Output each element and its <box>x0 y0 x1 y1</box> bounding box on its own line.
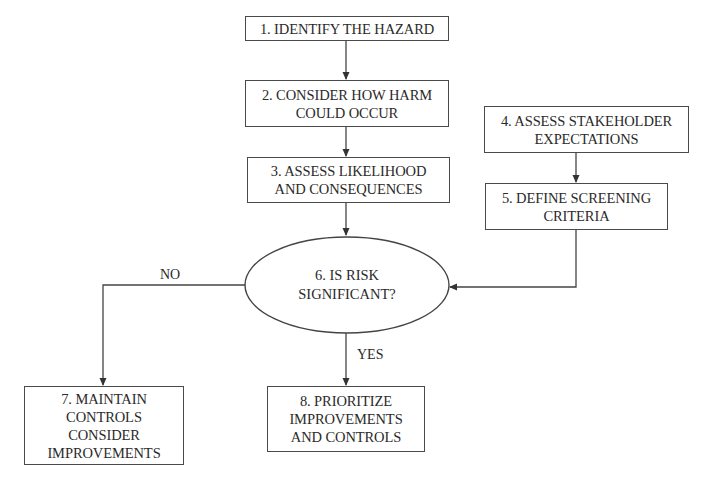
step-5-text-line1: 5. DEFINE SCREENING <box>502 189 651 207</box>
step-3-text-line1: 3. ASSESS LIKELIHOOD <box>271 162 427 180</box>
step-4-text-line1: 4. ASSESS STAKEHOLDER <box>501 112 672 130</box>
step-4-text-line2: EXPECTATIONS <box>501 130 672 148</box>
step-1-text: 1. IDENTIFY THE HAZARD <box>260 20 434 38</box>
step-4-stakeholder-expectations: 4. ASSESS STAKEHOLDER EXPECTATIONS <box>484 106 689 153</box>
step-2-text-line2: COULD OCCUR <box>262 104 432 122</box>
step-7-text-line3: CONSIDER <box>47 426 160 444</box>
step-2-consider-harm: 2. CONSIDER HOW HARM COULD OCCUR <box>245 80 449 127</box>
no-label: NO <box>160 267 180 283</box>
arrow-5-6 <box>450 229 576 287</box>
step-7-text-line4: IMPROVEMENTS <box>47 444 160 462</box>
step-8-text-line1: 8. PRIORITIZE <box>289 392 402 410</box>
arrow-6-7 <box>103 285 245 385</box>
step-8-prioritize-improvements: 8. PRIORITIZE IMPROVEMENTS AND CONTROLS <box>267 386 425 452</box>
step-6-text-line2: SIGNIFICANT? <box>260 285 434 304</box>
step-7-text-line1: 7. MAINTAIN <box>47 390 160 408</box>
step-1-identify-hazard: 1. IDENTIFY THE HAZARD <box>245 16 449 41</box>
step-7-text-line2: CONTROLS <box>47 408 160 426</box>
step-7-maintain-controls: 7. MAINTAIN CONTROLS CONSIDER IMPROVEMEN… <box>24 386 184 465</box>
step-5-screening-criteria: 5. DEFINE SCREENING CRITERIA <box>485 183 668 230</box>
yes-label: YES <box>357 347 383 363</box>
step-5-text-line2: CRITERIA <box>502 207 651 225</box>
step-3-assess-likelihood: 3. ASSESS LIKELIHOOD AND CONSEQUENCES <box>247 157 450 203</box>
step-6-decision-text: 6. IS RISK SIGNIFICANT? <box>260 266 434 304</box>
step-8-text-line2: IMPROVEMENTS <box>289 410 402 428</box>
step-3-text-line2: AND CONSEQUENCES <box>271 180 427 198</box>
step-8-text-line3: AND CONTROLS <box>289 428 402 446</box>
step-6-text-line1: 6. IS RISK <box>260 266 434 285</box>
step-2-text-line1: 2. CONSIDER HOW HARM <box>262 86 432 104</box>
